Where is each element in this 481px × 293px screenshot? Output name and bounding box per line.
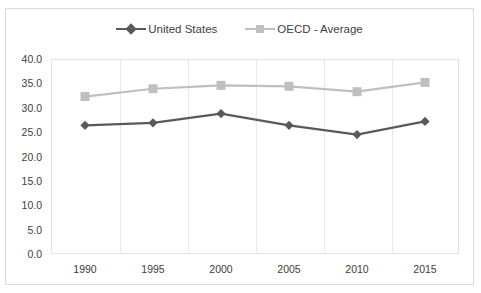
data-point-diamond-icon [80,121,89,130]
y-axis-tick-label: 15.0 [22,175,42,187]
y-axis: 40.035.030.025.020.015.010.05.00.0 [6,9,48,286]
x-axis-tick-label: 2005 [277,263,300,275]
x-axis-tick-label: 2015 [413,263,436,275]
y-axis-tick-label: 30.0 [22,102,42,114]
x-axis-tick-label: 1995 [141,263,164,275]
data-point-diamond-icon [352,130,361,139]
data-point-square-icon [421,78,430,87]
plot-wrapper: 40.035.030.025.020.015.010.05.00.0 19901… [6,9,475,286]
data-point-diamond-icon [284,121,293,130]
y-axis-tick-label: 35.0 [22,77,42,89]
x-axis-tick-label: 1990 [73,263,96,275]
y-axis-tick-label: 0.0 [27,248,42,260]
x-axis-tick-label: 2010 [345,263,368,275]
data-point-square-icon [353,87,362,96]
series-line-united-states [85,114,425,135]
x-axis: 199019952000200520102015 [51,259,459,281]
y-axis-tick-label: 20.0 [22,151,42,163]
chart-frame: United States OECD - Average 40.035.030.… [5,8,474,285]
y-axis-tick-label: 40.0 [22,53,42,65]
x-axis-tick-label: 2000 [209,263,232,275]
data-point-square-icon [149,84,158,93]
y-axis-tick-label: 25.0 [22,126,42,138]
series-line-oecd-average [85,82,425,96]
data-point-square-icon [285,82,294,91]
y-axis-tick-label: 5.0 [27,224,42,236]
data-point-square-icon [217,81,226,90]
data-point-diamond-icon [420,117,429,126]
data-point-diamond-icon [148,118,157,127]
series-layer [51,59,459,254]
y-axis-tick-label: 10.0 [22,199,42,211]
data-point-diamond-icon [216,109,225,118]
data-point-square-icon [81,92,90,101]
